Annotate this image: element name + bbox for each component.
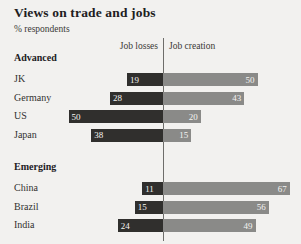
- bar-job-creation-china: 67: [163, 182, 290, 195]
- bar-value-job-losses-china: 11: [145, 184, 154, 193]
- bar-job-creation-us: 20: [163, 110, 201, 123]
- bar-value-job-creation-germany: 43: [232, 94, 241, 103]
- chart-subtitle: % respondents: [14, 24, 70, 34]
- bar-job-creation-india: 49: [163, 219, 256, 232]
- category-label-japan: Japan: [14, 129, 37, 140]
- category-label-jk: JK: [14, 73, 25, 84]
- category-label-brazil: Brazil: [14, 201, 38, 212]
- bar-value-job-losses-brazil: 15: [138, 203, 147, 212]
- category-label-us: US: [14, 110, 27, 121]
- chart-figure: Views on trade and jobs % respondents Jo…: [0, 0, 301, 244]
- bar-job-losses-jk: 19: [127, 73, 163, 86]
- category-label-india: India: [14, 219, 35, 230]
- bar-value-job-creation-india: 49: [244, 221, 253, 230]
- bar-value-job-losses-us: 50: [72, 112, 81, 121]
- bar-value-job-creation-jk: 50: [246, 75, 255, 84]
- bar-value-job-losses-jk: 19: [130, 75, 139, 84]
- category-label-germany: Germany: [14, 92, 51, 103]
- bar-job-losses-germany: 28: [110, 92, 163, 105]
- group-label-emerging: Emerging: [14, 161, 56, 172]
- bar-job-creation-brazil: 56: [163, 201, 269, 214]
- legend-label-job-creation: Job creation: [169, 41, 215, 51]
- bar-value-job-losses-germany: 28: [113, 94, 122, 103]
- bar-value-job-losses-india: 24: [121, 221, 130, 230]
- bar-value-job-creation-japan: 15: [179, 131, 188, 140]
- bar-value-job-creation-brazil: 56: [257, 203, 266, 212]
- bar-job-losses-japan: 38: [91, 129, 163, 142]
- bar-job-creation-japan: 15: [163, 129, 191, 142]
- bar-job-creation-jk: 50: [163, 73, 258, 86]
- legend-label-job-losses: Job losses: [120, 41, 158, 51]
- bar-job-losses-brazil: 15: [135, 201, 163, 214]
- bar-job-creation-germany: 43: [163, 92, 244, 105]
- chart-title: Views on trade and jobs: [14, 5, 156, 21]
- bar-job-losses-us: 50: [69, 110, 164, 123]
- bar-value-job-creation-china: 67: [278, 184, 287, 193]
- bar-value-job-creation-us: 20: [189, 112, 198, 121]
- group-label-advanced: Advanced: [14, 52, 57, 63]
- category-label-china: China: [14, 182, 38, 193]
- bar-value-job-losses-japan: 38: [94, 131, 103, 140]
- bar-job-losses-china: 11: [142, 182, 163, 195]
- bar-job-losses-india: 24: [118, 219, 163, 232]
